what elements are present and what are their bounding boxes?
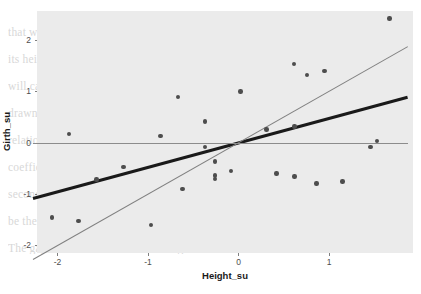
data-point bbox=[149, 223, 153, 227]
data-point bbox=[292, 124, 296, 128]
data-point bbox=[238, 89, 242, 93]
data-point bbox=[292, 62, 296, 66]
x-axis-tick-label: -1 bbox=[133, 257, 163, 267]
data-point bbox=[264, 127, 268, 131]
data-point bbox=[158, 134, 162, 138]
x-axis-tick-mark bbox=[238, 253, 239, 256]
data-point bbox=[180, 187, 184, 191]
y-axis-tick-mark bbox=[35, 40, 38, 41]
data-point bbox=[322, 69, 326, 73]
y-axis-tick-mark bbox=[35, 91, 38, 92]
x-axis-tick-mark bbox=[57, 253, 58, 256]
data-point bbox=[76, 219, 80, 223]
x-axis-tick-mark bbox=[329, 253, 330, 256]
x-axis-title: Height_su bbox=[165, 270, 285, 281]
data-point bbox=[176, 95, 180, 99]
data-point bbox=[292, 174, 296, 178]
x-axis-tick-label: 1 bbox=[314, 257, 344, 267]
zero-reference-line bbox=[33, 143, 408, 144]
data-point bbox=[203, 119, 207, 123]
plot-panel bbox=[37, 11, 413, 253]
y-axis-tick-label: 1 bbox=[7, 86, 31, 96]
y-axis-tick-label: -1 bbox=[7, 189, 31, 199]
data-point bbox=[50, 215, 54, 219]
data-point bbox=[274, 171, 278, 175]
y-axis-tick-mark bbox=[35, 245, 38, 246]
data-point bbox=[387, 16, 391, 20]
y-axis-title: Girth_su bbox=[1, 102, 12, 162]
x-axis-tick-label: 0 bbox=[224, 257, 254, 267]
y-axis-tick-label: 2 bbox=[7, 35, 31, 45]
x-axis-tick-mark bbox=[148, 253, 149, 256]
y-axis-tick-label: -2 bbox=[7, 240, 31, 250]
x-axis-tick-label: -2 bbox=[43, 257, 73, 267]
data-point bbox=[213, 159, 217, 163]
data-point bbox=[340, 179, 344, 183]
data-point bbox=[314, 181, 318, 185]
scatter-plot-figure: that whatever else you might say about a… bbox=[0, 0, 421, 294]
data-point bbox=[94, 177, 98, 181]
